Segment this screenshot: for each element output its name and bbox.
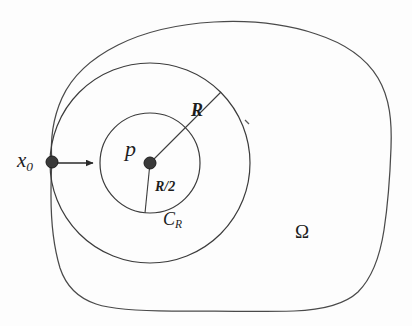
label-R-over-2: R/2 (155, 180, 175, 194)
point-dot-x0 (46, 156, 58, 168)
tick-mark-on-circle (245, 120, 249, 124)
label-C-R-base: C (163, 209, 175, 229)
label-C-R-subscript: R (175, 218, 182, 230)
diagram-canvas (0, 0, 412, 326)
point-dot-p (144, 157, 156, 169)
label-C-R: CR (163, 210, 182, 231)
radius-line-R-over-2 (145, 163, 150, 213)
domain-boundary-curve (51, 22, 391, 312)
geometry-figure: x0 p R R/2 CR Ω (0, 0, 412, 326)
label-x-zero: x0 (17, 150, 33, 173)
label-omega: Ω (295, 222, 309, 241)
label-x-zero-subscript: 0 (26, 159, 33, 174)
radius-line-R (150, 92, 221, 163)
label-x-zero-base: x (17, 148, 26, 172)
label-p: p (125, 138, 136, 160)
label-R: R (191, 101, 203, 119)
